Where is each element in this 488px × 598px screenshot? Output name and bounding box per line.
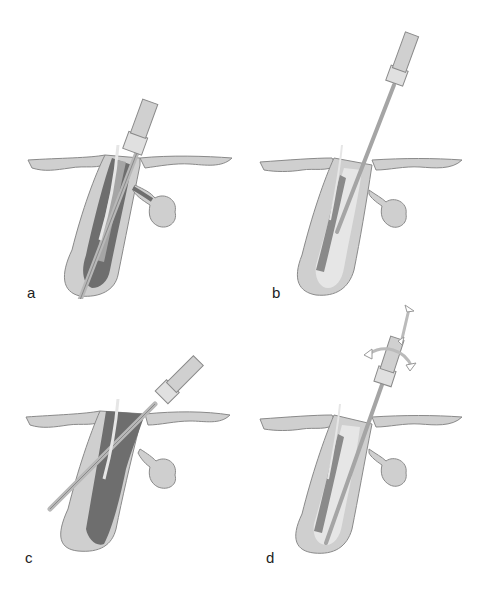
panel-a: a bbox=[0, 0, 244, 299]
panel-d: d bbox=[244, 299, 488, 598]
panel-label-d: d bbox=[266, 549, 274, 566]
panel-label-c: c bbox=[25, 549, 33, 566]
vertical-motion-arrow-icon bbox=[398, 305, 414, 345]
follicle-probe-motion-illustration-d bbox=[244, 299, 488, 598]
panel-c: c bbox=[0, 299, 244, 598]
panel-b: b bbox=[244, 0, 488, 299]
follicle-probe-illustration-a bbox=[0, 0, 244, 299]
follicle-oblique-needle-illustration-c bbox=[0, 299, 244, 598]
follicle-needle-illustration-b bbox=[244, 0, 488, 299]
